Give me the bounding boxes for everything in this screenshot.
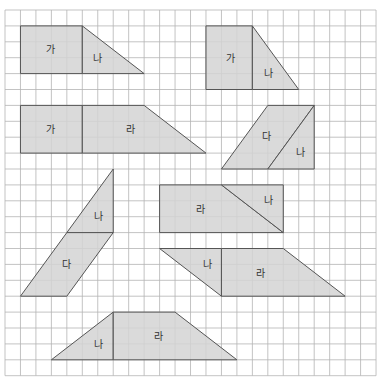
piece-label: 나: [93, 53, 102, 64]
figure-na-ra-lower: 나라: [160, 249, 346, 297]
piece-label: 라: [196, 204, 205, 215]
piece-label: 나: [94, 211, 103, 222]
piece-label: 가: [226, 53, 235, 64]
piece-label: 다: [62, 259, 71, 270]
piece-라: [113, 312, 237, 360]
piece-label: 나: [264, 195, 273, 206]
piece-label: 라: [126, 124, 135, 135]
piece-label: 가: [46, 44, 55, 55]
piece-label: 가: [46, 124, 55, 135]
piece-label: 나: [203, 259, 212, 270]
figure-ra-na: 라나: [160, 185, 284, 233]
figures: 가나가나가라다나나다라나나라나라: [20, 26, 345, 360]
piece-label: 나: [296, 147, 305, 158]
figure-na-ra-bottom: 나라: [51, 312, 237, 360]
piece-label: 라: [256, 268, 265, 279]
piece-라: [221, 249, 345, 297]
piece-label: 라: [154, 331, 163, 342]
figure-ga-ra: 가라: [20, 105, 206, 153]
piece-label: 나: [94, 339, 103, 350]
piece-label: 다: [262, 131, 271, 142]
grid-diagram: 가나가나가라다나나다라나나라나라: [0, 0, 379, 378]
figure-ga-na-top-left: 가나: [20, 26, 144, 74]
piece-label: 나: [264, 68, 273, 79]
piece-라: [82, 105, 206, 153]
